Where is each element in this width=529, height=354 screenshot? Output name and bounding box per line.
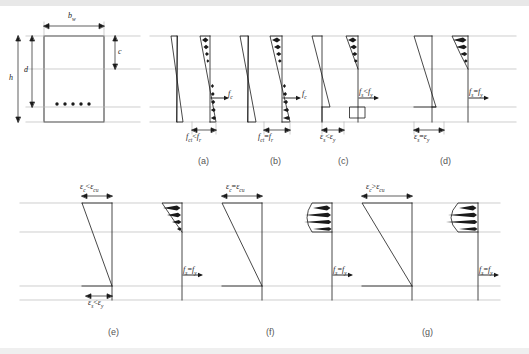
panel-g-stress-diagram: [446, 203, 499, 300]
panel-f-top-dimension: [222, 194, 262, 198]
figure-canvas: bw h d c fc fct<fr (a) fc fct=fr (b) fs<…: [0, 0, 529, 354]
panel-e-caption: (e): [108, 327, 119, 337]
beam-cross-section: [26, 36, 140, 122]
label-width-bw: bw: [68, 12, 76, 22]
panel-f-caption: (f): [266, 327, 275, 337]
panel-a-caption: (a): [198, 156, 209, 166]
panel-d-strain-diagram: [414, 36, 436, 122]
panel-g-top-label: εc>εcu: [366, 183, 384, 193]
panel-c-caption: (c): [338, 156, 349, 166]
row1-guidelines: [150, 36, 516, 122]
dimension-effective-depth: [30, 36, 34, 107]
label-effective-depth-d: d: [24, 66, 28, 74]
panel-d-stress-diagram: [452, 36, 489, 122]
label-neutral-axis-c: c: [118, 48, 122, 56]
panel-c-stress-diagram: [346, 36, 379, 122]
panel-f-strain-diagram: [222, 203, 262, 300]
dimension-neutral-axis-depth: [113, 36, 117, 69]
panel-b-caption: (b): [270, 156, 281, 166]
panel-d-stress-label: fs=fy: [469, 88, 483, 98]
panel-a-stress-diagram: [200, 36, 229, 122]
label-height-h: h: [9, 74, 13, 82]
panel-e-stress-label: fs=fy: [183, 266, 197, 276]
rebar-dots: [55, 102, 90, 105]
panel-f-top-label: εc=εcu: [226, 183, 244, 193]
dimension-width: [44, 22, 104, 36]
panel-c-bottom-label: εs<εy: [320, 133, 335, 143]
panel-f-stress-diagram: [304, 203, 353, 300]
panel-d-bottom-label: εs=εy: [414, 133, 429, 143]
panel-e-strain-diagram: [82, 203, 112, 300]
panel-a-bottom-label: fct<fr: [186, 133, 201, 143]
panel-b-bottom-label: fct=fr: [258, 133, 273, 143]
panel-g-stress-label: fs=fy: [479, 266, 493, 276]
panel-d-caption: (d): [440, 156, 451, 166]
beam-stress-strain-diagram: [0, 0, 529, 354]
row2-guidelines: [20, 203, 500, 300]
panel-b-strain-diagram: [240, 36, 256, 122]
panel-g-strain-diagram: [362, 203, 412, 300]
panel-e-stress-diagram: [162, 203, 203, 300]
panel-b-stress-label: fc: [302, 90, 307, 100]
dimension-height: [16, 36, 20, 122]
panel-c-strain-diagram: [312, 36, 330, 122]
panel-g-top-dimension: [362, 194, 412, 198]
panel-g-caption: (g): [422, 327, 433, 337]
panel-e-bottom-label: εs<εy: [88, 299, 103, 309]
panel-b-stress-diagram: [270, 36, 301, 122]
panel-f-stress-label: fs=fy: [333, 266, 347, 276]
panel-c-stress-label: fs<fy: [359, 88, 373, 98]
panel-a-strain-diagram: [171, 36, 183, 122]
panel-e-top-label: εc<εcu: [80, 183, 98, 193]
panel-e-top-dimension: [82, 194, 112, 198]
panel-a-stress-label: fc: [228, 90, 233, 100]
